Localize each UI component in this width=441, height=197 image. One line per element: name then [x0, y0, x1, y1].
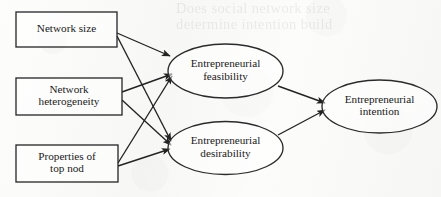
- mediator-node-entrepreneurial-desirability: Entrepreneurial desirability: [168, 122, 283, 175]
- node-label-line1: Entrepreneurial: [191, 57, 261, 69]
- node-label-line1: Entrepreneurial: [191, 134, 261, 146]
- node-label-line2: desirability: [200, 147, 251, 159]
- node-label-line2: intention: [360, 105, 400, 117]
- node-label-line2: heterogeneity: [39, 95, 100, 107]
- scanned-figure-page: Does social network size determine inten…: [0, 0, 441, 197]
- antecedent-node-network-heterogeneity: Network heterogeneity: [16, 78, 122, 115]
- antecedent-node-network-size: Network size: [16, 12, 117, 47]
- edge-size-to-desirability: [117, 36, 171, 141]
- mediator-node-entrepreneurial-feasibility: Entrepreneurial feasibility: [168, 44, 283, 98]
- node-label-line1: Entrepreneurial: [345, 93, 415, 105]
- path-model-diagram: Network size Network heterogeneity Prope…: [0, 0, 441, 197]
- edge-feasibility-to-intention: [278, 86, 325, 103]
- node-label-line1: Properties of: [38, 150, 96, 162]
- node-label-line1: Network size: [37, 22, 96, 34]
- edge-desirability-to-intention: [278, 110, 325, 135]
- node-label-line2: top nod: [50, 162, 84, 174]
- node-label-line1: Network: [49, 83, 89, 95]
- edge-heterogeneity-to-desirability: [122, 100, 171, 145]
- node-label-line2: feasibility: [203, 70, 248, 82]
- antecedent-node-properties-top-node: Properties of top nod: [16, 145, 118, 182]
- outcome-node-entrepreneurial-intention: Entrepreneurial intention: [322, 80, 437, 133]
